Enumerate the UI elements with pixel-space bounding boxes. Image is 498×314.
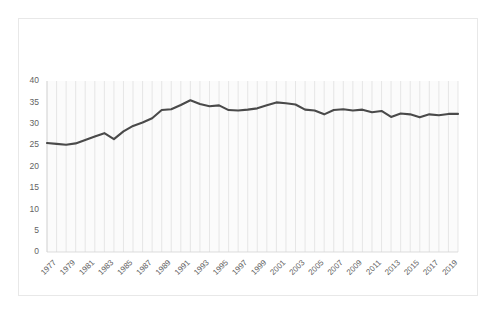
x-axis-tick-label: 1987 [135, 258, 154, 277]
x-axis-tick-label: 2001 [268, 258, 287, 277]
chart-figure: 0510152025303540 19771979198119831985198… [0, 0, 498, 314]
y-axis-tick-label: 30 [30, 118, 40, 128]
line-chart: 0510152025303540 19771979198119831985198… [0, 0, 498, 314]
x-axis-tick-label: 2007 [326, 258, 345, 277]
x-axis-tick-label: 1995 [211, 258, 230, 277]
x-axis-tick-label: 2015 [402, 258, 421, 277]
plot-area-background [47, 81, 458, 252]
x-axis-tick-label: 2017 [421, 258, 440, 277]
y-axis-tick-label: 15 [30, 182, 40, 192]
x-axis-tick-label: 2003 [288, 258, 307, 277]
x-axis-tick-label: 1999 [249, 258, 268, 277]
y-axis-tick-label: 20 [30, 161, 40, 171]
x-axis-tick-label: 1989 [154, 258, 173, 277]
x-axis-tick-label: 1979 [58, 258, 77, 277]
x-axis-tick-label: 2011 [364, 258, 383, 277]
y-axis-tick-label: 5 [34, 225, 39, 235]
x-axis-tick-label: 1985 [115, 258, 134, 277]
y-axis-tick-label: 0 [34, 246, 39, 256]
x-axis-tick-label: 1991 [173, 258, 192, 277]
x-axis-tick-label: 2009 [345, 258, 364, 277]
y-axis-tick-label: 10 [30, 204, 40, 214]
x-axis-tick-label: 1997 [230, 258, 249, 277]
x-axis-tick-label: 1993 [192, 258, 211, 277]
y-axis-tick-label: 35 [30, 97, 40, 107]
x-axis-tick-labels: 1977197919811983198519871989199119931995… [39, 258, 460, 277]
x-axis-tick-label: 1977 [39, 258, 58, 277]
x-axis-tick-label: 2019 [440, 258, 459, 277]
plot-background-group [47, 81, 458, 252]
x-axis-tick-label: 2013 [383, 258, 402, 277]
y-axis-tick-labels: 0510152025303540 [30, 75, 40, 256]
y-axis-tick-label: 40 [30, 75, 40, 85]
x-axis-tick-label: 1981 [77, 258, 96, 277]
x-axis-tick-label: 1983 [96, 258, 115, 277]
y-axis-tick-label: 25 [30, 139, 40, 149]
x-axis-tick-label: 2005 [307, 258, 326, 277]
